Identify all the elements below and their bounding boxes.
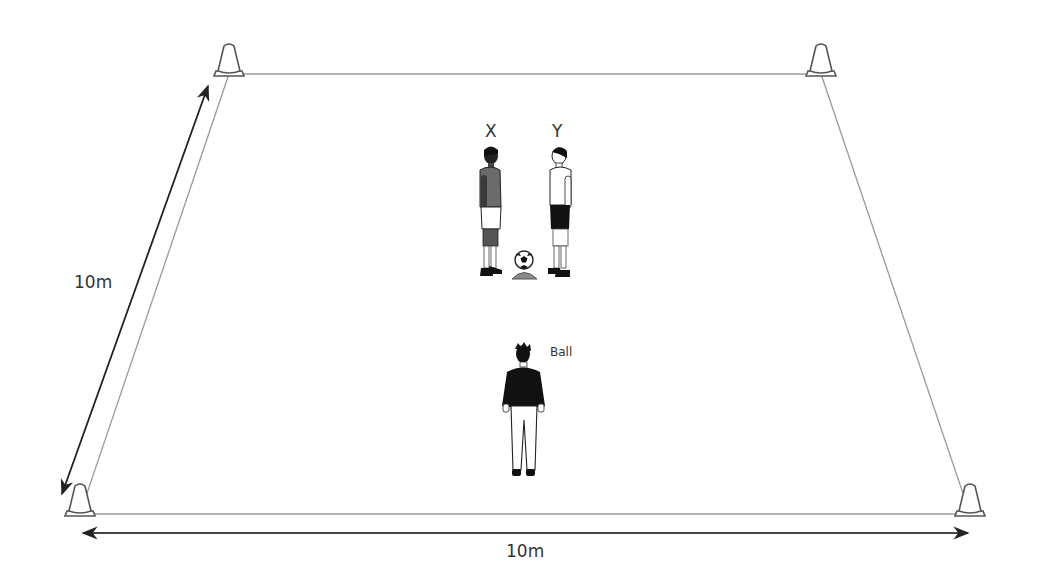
server-player-figure bbox=[502, 342, 545, 476]
side-dimension-label: 10m bbox=[74, 272, 112, 292]
cone-icon bbox=[806, 44, 836, 76]
ball-on-cone bbox=[512, 251, 537, 279]
cone-icon bbox=[214, 44, 244, 76]
player-x-label: X bbox=[485, 121, 497, 141]
player-y-figure bbox=[548, 147, 571, 277]
cone-icon bbox=[65, 484, 95, 516]
player-x-figure bbox=[480, 147, 502, 277]
player-y-label: Y bbox=[552, 121, 562, 141]
drill-diagram bbox=[0, 0, 1037, 586]
pitch-boundary bbox=[80, 74, 970, 514]
server-ball-label: Ball bbox=[550, 345, 572, 359]
bottom-dimension-label: 10m bbox=[506, 541, 544, 561]
cone-icon bbox=[955, 484, 985, 516]
